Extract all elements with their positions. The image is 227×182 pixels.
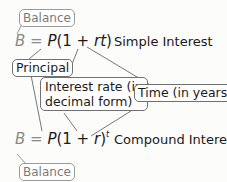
formula-open: (1 + (56, 32, 94, 50)
balance-label-top-text: Balance (23, 11, 71, 25)
balance-label-top: Balance (19, 9, 75, 27)
formula-open: (1 + (56, 130, 94, 148)
leader-rate-compound (64, 113, 77, 131)
formula-exponent-t: t (106, 130, 109, 139)
simple-interest-formula: B = P(1 + rt) (15, 32, 112, 50)
formula-equals: = (25, 130, 47, 148)
compound-interest-caption: Compound Interest (114, 132, 227, 147)
interest-rate-line1: Interest rate (in (45, 79, 143, 94)
balance-label-bottom: Balance (19, 163, 75, 181)
formula-equals: = (25, 32, 47, 50)
compound-interest-formula: B = P(1 + r)t (15, 130, 109, 148)
time-label-text: Time (in years) (138, 85, 227, 100)
formula-close: ) (106, 32, 112, 50)
interest-formula-diagram: Balance B = P(1 + rt) Simple Interest Pr… (0, 0, 227, 182)
formula-var-B: B (15, 32, 25, 50)
balance-label-bottom-text: Balance (23, 165, 71, 179)
simple-interest-caption: Simple Interest (114, 34, 213, 49)
interest-rate-line2: decimal form) (45, 94, 143, 109)
principal-label: Principal (12, 59, 73, 77)
principal-label-text: Principal (16, 60, 69, 75)
time-label: Time (in years) (134, 84, 227, 102)
interest-rate-label: Interest rate (in decimal form) (40, 77, 148, 111)
formula-var-B: B (15, 130, 25, 148)
leader-principal-simple (29, 49, 41, 59)
